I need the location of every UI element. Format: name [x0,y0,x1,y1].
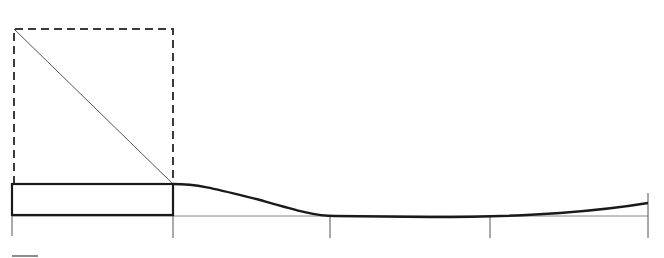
block [12,184,173,215]
span-ticks [12,184,648,238]
deflection-curve [173,184,648,217]
deflection-diagram [0,0,664,258]
diagonal-line [14,29,173,184]
